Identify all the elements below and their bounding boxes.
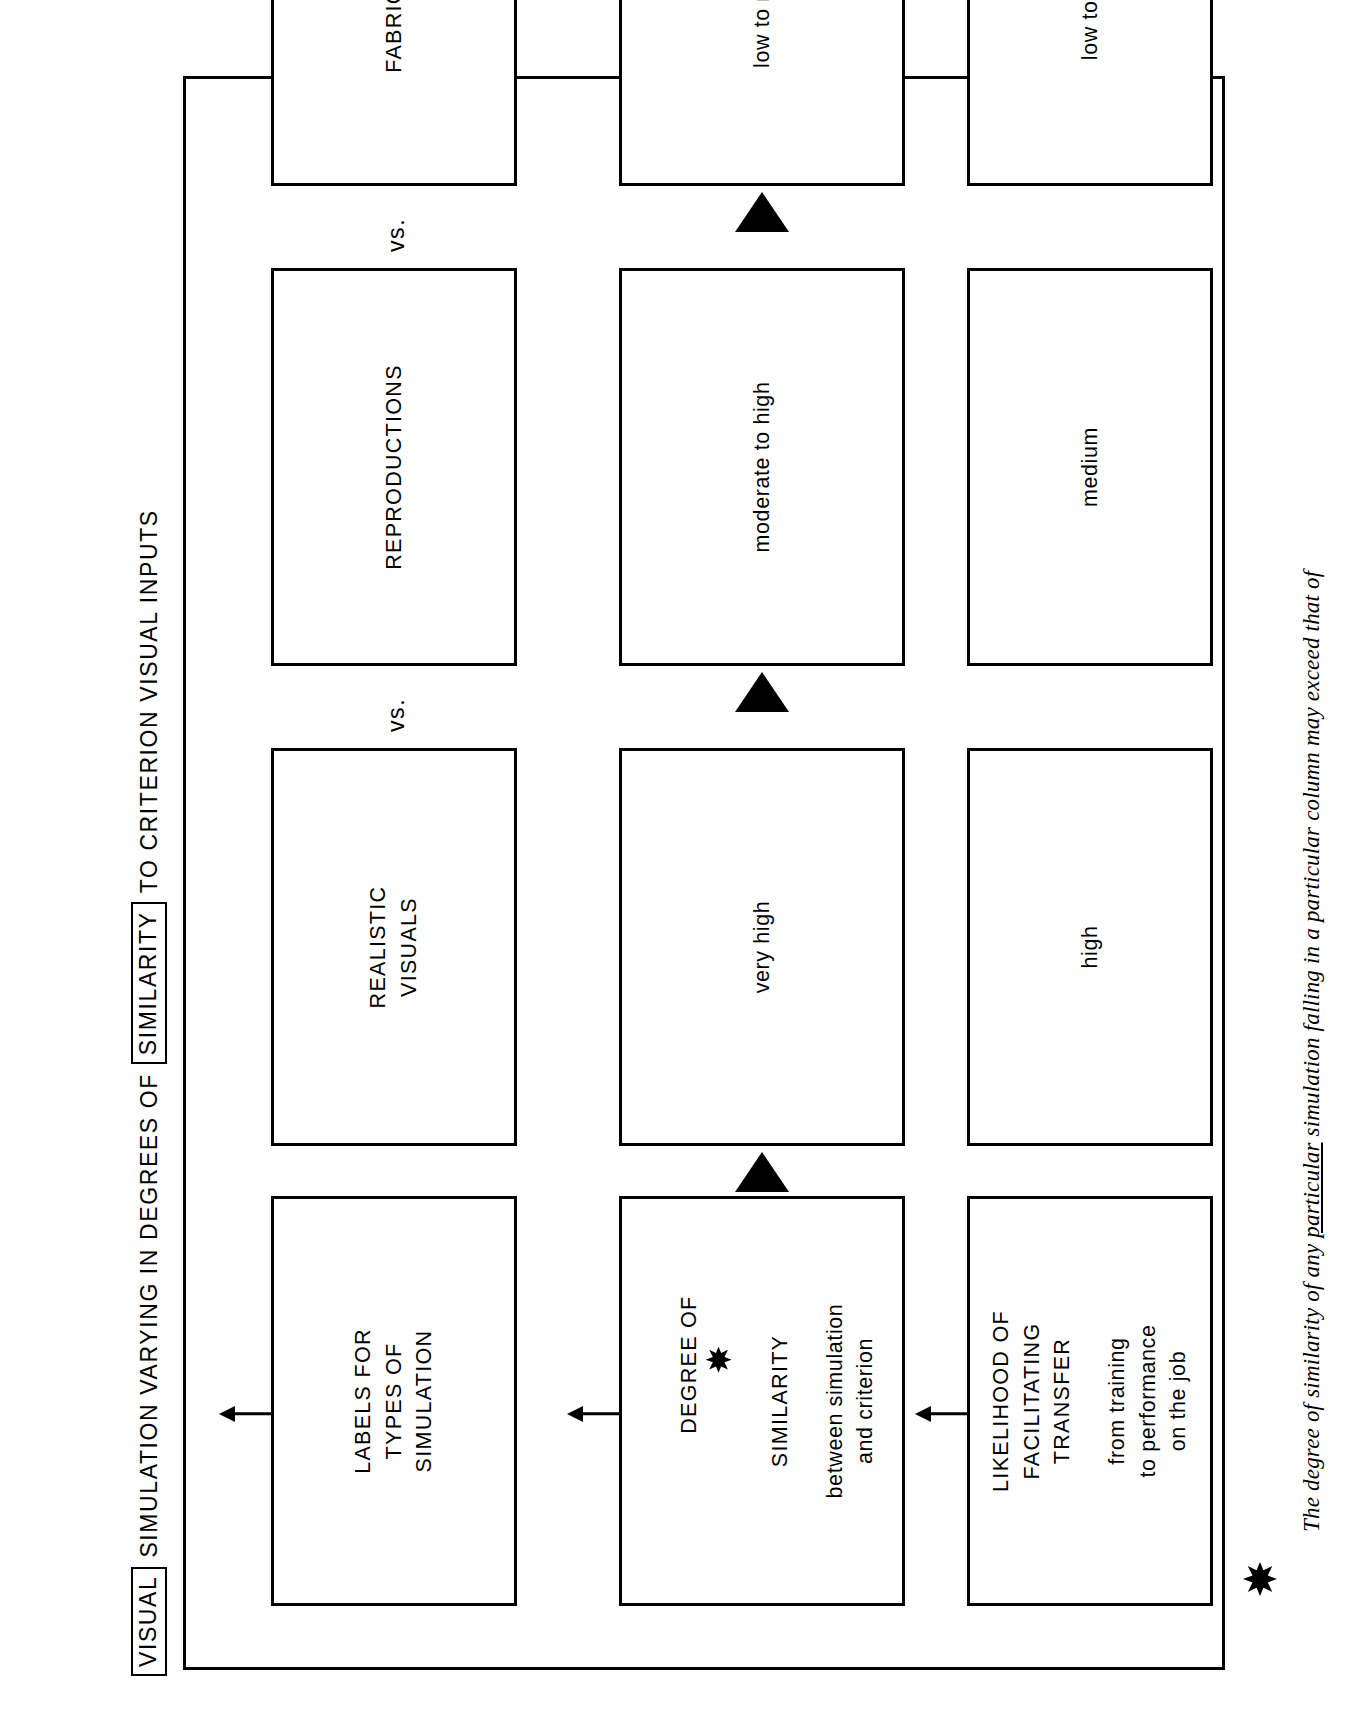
row-label-box-degree-of-similarity: DEGREE OF SIMILARITY between simulation …	[619, 1196, 905, 1606]
footnote-star-icon	[1243, 1562, 1277, 1596]
title-text-mid: SIMULATION VARYING IN DEGREES OF	[137, 1064, 160, 1566]
value-text: low to moderate	[746, 0, 777, 68]
column-head-fabrications: FABRICATIONS	[271, 0, 517, 186]
column-head-realistic-visuals: REALISTIC VISUALS	[271, 748, 517, 1146]
title-boxed-similarity: SIMILARITY	[131, 902, 167, 1064]
footnote-span: The degree of similarity of any	[1299, 1238, 1324, 1532]
column-label-line: FABRICATIONS	[378, 0, 409, 73]
value-text: moderate to high	[746, 382, 777, 553]
row-label-line: SIMULATION	[409, 1330, 440, 1473]
value-text: high	[1074, 925, 1105, 968]
footnote-span: simulation falling in a particular colum…	[1299, 701, 1324, 1142]
right-triangle-marker-icon	[735, 1152, 789, 1192]
value-text: low to medium	[1074, 0, 1105, 60]
value-cell-transfer-reproductions: medium	[967, 268, 1213, 666]
row-sublabel-line: on the job	[1163, 1351, 1194, 1451]
value-cell-similarity-reproductions: moderate to high	[619, 268, 905, 666]
diagram-canvas: VISUAL SIMULATION VARYING IN DEGREES OF …	[0, 0, 1371, 1734]
column-label-line: REPRODUCTIONS	[378, 364, 409, 570]
column-label-line: REALISTIC	[363, 886, 394, 1009]
row-label-line: SIMILARITY	[765, 1335, 796, 1467]
footnote-line: The degree of similarity of any particul…	[1252, 102, 1331, 1532]
footnote-emph-span: exceed	[1299, 637, 1324, 701]
footnote-span: that of	[1299, 571, 1324, 638]
value-text: very high	[746, 901, 777, 994]
row-label-line: TYPES OF	[378, 1343, 409, 1460]
rotated-diagram: VISUAL SIMULATION VARYING IN DEGREES OF …	[91, 50, 1281, 1684]
title-text-end: TO CRITERION VISUAL INPUTS	[137, 500, 160, 902]
footnote-underline-span: particular	[1299, 1142, 1324, 1237]
row-sublabel-line: to performance	[1132, 1325, 1163, 1478]
up-arrow-icon	[567, 1404, 619, 1424]
up-arrow-icon	[219, 1404, 271, 1424]
eight-point-star-icon	[705, 1347, 731, 1373]
column-label-line: VISUALS	[394, 897, 425, 997]
footnote-text: The degree of similarity of any particul…	[1213, 102, 1371, 1532]
value-cell-similarity-fabrications: low to moderate	[619, 0, 905, 186]
separator-vs-1: vs.	[383, 698, 410, 732]
separator-vs-2: vs.	[383, 218, 410, 252]
row-label-line: FACILITATING	[1016, 1323, 1047, 1480]
row-label-box-likelihood-transfer: LIKELIHOOD OF FACILITATING TRANSFER from…	[967, 1196, 1213, 1606]
value-cell-similarity-realistic: very high	[619, 748, 905, 1146]
column-head-reproductions: REPRODUCTIONS	[271, 268, 517, 666]
row-sublabel-line: from training	[1102, 1337, 1133, 1464]
diagram-title: VISUAL SIMULATION VARYING IN DEGREES OF …	[129, 500, 169, 1676]
row-label-line: LIKELIHOOD OF	[986, 1310, 1017, 1492]
value-cell-transfer-realistic: high	[967, 748, 1213, 1146]
row-label-line: TRANSFER	[1047, 1338, 1078, 1464]
right-triangle-marker-icon	[735, 192, 789, 232]
row-label-box-types: LABELS FOR TYPES OF SIMULATION	[271, 1196, 517, 1606]
value-cell-transfer-fabrications: low to medium	[967, 0, 1213, 186]
row-sublabel-line: and criterion	[850, 1338, 881, 1464]
row-label-line: LABELS FOR	[348, 1328, 379, 1474]
right-triangle-marker-icon	[735, 672, 789, 712]
up-arrow-icon	[915, 1404, 967, 1424]
row-sublabel-line: between simulation	[819, 1304, 850, 1499]
row-label-line: DEGREE OF	[676, 1295, 700, 1433]
title-boxed-visual: VISUAL	[131, 1567, 167, 1676]
value-text: medium	[1074, 427, 1105, 507]
